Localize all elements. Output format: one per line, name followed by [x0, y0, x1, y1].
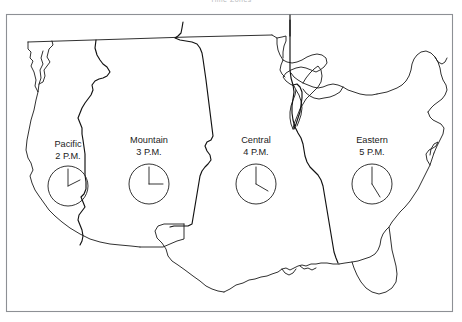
- michigan-west-shore: [290, 86, 296, 129]
- zone-group-eastern: Eastern 5 P.M.: [352, 135, 392, 204]
- mid-atlantic-coast: [428, 112, 444, 153]
- minnesota-border-jog: [277, 36, 286, 58]
- zone-time-eastern: 5 P.M.: [359, 147, 384, 157]
- zone-time-mountain: 3 P.M.: [136, 147, 161, 157]
- chesapeake-bay-detail: [426, 142, 438, 165]
- zone-group-mountain: Mountain 3 P.M.: [129, 135, 169, 204]
- texas-west-border: [155, 224, 224, 292]
- zone-name-mountain: Mountain: [130, 135, 168, 145]
- florida-outline: [339, 227, 397, 294]
- zone-name-pacific: Pacific: [54, 139, 81, 149]
- great-lakes-east: [291, 73, 377, 95]
- clock-hour-hand-central: [256, 184, 268, 191]
- zone-group-central: Central 4 P.M.: [236, 135, 276, 204]
- northern-border-central: [272, 35, 283, 60]
- upper-peninsula-shore: [280, 60, 285, 77]
- pacific-mountain-boundary: [78, 40, 110, 245]
- gulf-coast-detail: [300, 266, 316, 270]
- time-zone-figure: Time Zones: [0, 0, 462, 322]
- southeast-atlantic-coast: [389, 153, 434, 227]
- zone-time-pacific: 2 P.M.: [55, 151, 80, 161]
- lake-erie-shore: [303, 87, 343, 99]
- puget-sound-detail: [39, 51, 43, 84]
- map-border: [7, 15, 453, 312]
- us-time-zone-map: Pacific 2 P.M. Mountain 3 P.M. Central 4…: [0, 0, 462, 322]
- figure-caption: Time Zones: [0, 0, 462, 4]
- pacific-northwest-coast: [28, 41, 53, 92]
- zone-time-central: 4 P.M.: [243, 147, 268, 157]
- gulf-coast-texas: [224, 263, 339, 292]
- zone-name-central: Central: [241, 135, 271, 145]
- mountain-central-boundary: [170, 22, 213, 227]
- maine-north-border: [435, 57, 447, 64]
- clock-hour-hand-pacific: [68, 180, 80, 186]
- clock-hour-hand-eastern: [372, 184, 380, 197]
- northern-border-west: [28, 35, 272, 42]
- west-coast: [26, 92, 140, 247]
- zone-name-eastern: Eastern: [356, 135, 388, 145]
- central-eastern-boundary: [290, 20, 338, 263]
